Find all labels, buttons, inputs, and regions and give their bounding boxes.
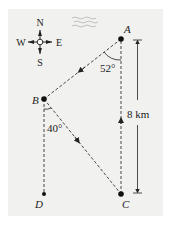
angle-b-label: 40° xyxy=(47,122,62,134)
point-c xyxy=(118,191,124,197)
compass-west-label: W xyxy=(16,37,26,48)
compass-east-label: E xyxy=(56,37,62,48)
arrow-b-to-c xyxy=(75,137,78,141)
compass-south-label: S xyxy=(37,57,43,68)
path-b-to-c xyxy=(44,99,121,194)
angle-arc-a xyxy=(104,52,121,60)
water-waves-icon xyxy=(72,17,98,27)
navigation-diagram: N S W E A B C D 52° 40° 8 km xyxy=(0,0,171,229)
point-d-label: D xyxy=(34,198,43,210)
compass-north-label: N xyxy=(36,17,43,28)
point-d xyxy=(42,192,46,196)
compass-rose-icon xyxy=(28,30,52,54)
point-b-label: B xyxy=(32,94,39,106)
point-c-label: C xyxy=(122,198,130,210)
distance-label: 8 km xyxy=(127,108,150,120)
arrow-a-to-b xyxy=(80,67,85,71)
point-b xyxy=(41,96,47,102)
point-a xyxy=(118,36,124,42)
point-a-label: A xyxy=(123,23,131,35)
angle-a-label: 52° xyxy=(100,62,115,74)
angle-arc-b xyxy=(44,108,51,109)
